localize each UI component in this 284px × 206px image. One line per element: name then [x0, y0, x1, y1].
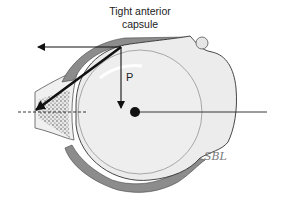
force-label-p: P [126, 71, 133, 83]
sbl-watermark: SBL [204, 150, 227, 163]
diagram-title-line1: Tight anterior [0, 5, 282, 17]
diagram-illustration [0, 0, 284, 206]
center-of-rotation-dot [130, 107, 140, 117]
tuberosity-circle [196, 37, 208, 49]
diagram-title-line2: capsule [0, 18, 282, 30]
shoulder-capsule-diagram: Tight anterior capsule P SBL [0, 0, 284, 206]
